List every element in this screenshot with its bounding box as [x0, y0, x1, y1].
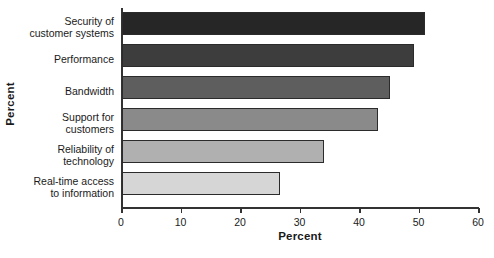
category-label: Security ofcustomer systems [14, 16, 114, 39]
x-axis-tick-label: 10 [164, 216, 198, 228]
category-label-line: Performance [14, 54, 114, 66]
x-axis-tick [121, 208, 123, 213]
x-axis-tick [359, 208, 361, 213]
category-label: Real-time accessto information [14, 176, 114, 199]
category-label-line: Support for [14, 112, 114, 124]
category-label-line: technology [14, 156, 114, 168]
bar [122, 76, 390, 99]
category-label: Support forcustomers [14, 112, 114, 135]
category-label: Reliability oftechnology [14, 144, 114, 167]
x-axis-tick [181, 208, 183, 213]
x-axis-tick-label: 40 [342, 216, 376, 228]
category-label: Performance [14, 54, 114, 66]
category-label-line: customers [14, 124, 114, 136]
x-axis-tick [240, 208, 242, 213]
bar-chart: Percent Security ofcustomer systemsPerfo… [0, 0, 494, 258]
category-label-line: customer systems [14, 28, 114, 40]
x-axis-tick-label: 20 [223, 216, 257, 228]
category-label-column: Security ofcustomer systemsPerformanceBa… [18, 12, 118, 207]
bar [122, 44, 414, 67]
bar [122, 12, 425, 35]
bar [122, 108, 378, 131]
x-axis-tick [478, 208, 480, 213]
x-axis-tick-label: 30 [283, 216, 317, 228]
category-label-line: Real-time access [14, 176, 114, 188]
plot-area: 0102030405060 [121, 8, 478, 207]
bar [122, 140, 324, 163]
category-label-line: Bandwidth [14, 86, 114, 98]
category-label-line: Reliability of [14, 144, 114, 156]
x-axis-tick [300, 208, 302, 213]
category-label-line: Security of [14, 16, 114, 28]
x-axis-tick-label: 50 [402, 216, 436, 228]
bar [122, 172, 280, 195]
x-axis-tick [419, 208, 421, 213]
x-axis-tick-label: 0 [104, 216, 138, 228]
category-label: Bandwidth [14, 86, 114, 98]
x-axis-title: Percent [121, 230, 479, 242]
x-axis-tick-label: 60 [461, 216, 494, 228]
category-label-line: to information [14, 188, 114, 200]
